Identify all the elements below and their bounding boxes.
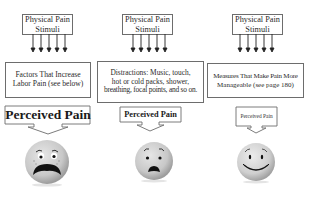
modifier-line2: Manageable (see page 180) <box>213 81 297 89</box>
perceived-pain-callout-large: Perceived Pain <box>4 105 92 135</box>
distractions-box: Distractions: Music, touch, hot or cold … <box>97 61 204 103</box>
arrows-icon <box>237 34 277 54</box>
arrows-icon <box>130 34 170 54</box>
perceived-pain-callout-small: Perceived Pain <box>235 106 278 134</box>
perceived-pain-callout-medium: Perceived Pain <box>119 106 182 132</box>
manageable-measures-box: Measures That Make Pain More Manageable … <box>207 63 304 98</box>
worried-face-icon <box>134 141 174 183</box>
perceived-pain-label: Perceived Pain <box>235 107 278 126</box>
stimulus-line2: Stimuli <box>25 25 70 35</box>
stimulus-line2: Stimuli <box>235 25 280 35</box>
factors-increase-box: Factors That Increase Labor Pain (see be… <box>5 62 91 98</box>
modifier-line2: Labor Pain (see below) <box>13 80 84 89</box>
stimulus-line1: Physical Pain <box>25 15 70 25</box>
modifier-line3: breathing, focal points, and so on. <box>104 86 197 95</box>
stimulus-line2: Stimuli <box>125 25 170 35</box>
stimulus-line1: Physical Pain <box>125 15 170 25</box>
stimulus-box: Physical Pain Stimuli <box>122 14 173 35</box>
stimulus-box: Physical Pain Stimuli <box>232 14 283 35</box>
stimulus-line1: Physical Pain <box>235 15 280 25</box>
arrows-icon <box>30 34 70 54</box>
stimulus-box: Physical Pain Stimuli <box>22 14 73 35</box>
distressed-face-icon <box>24 139 70 187</box>
smiling-face-icon <box>236 142 276 184</box>
modifier-line1: Measures That Make Pain More <box>213 72 297 80</box>
perceived-pain-label: Perceived Pain <box>4 106 92 124</box>
perceived-pain-label: Perceived Pain <box>119 107 182 122</box>
